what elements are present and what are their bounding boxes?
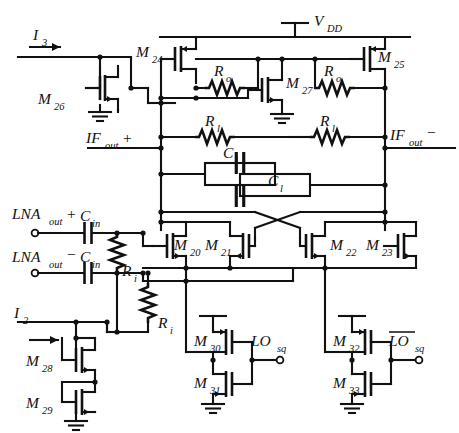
label-Rl-left: R bbox=[204, 112, 215, 129]
label-M31: M bbox=[193, 374, 208, 391]
label-M25-sub: 25 bbox=[394, 59, 405, 70]
label-M21-sub: 21 bbox=[221, 247, 232, 258]
label-M25: M bbox=[377, 48, 392, 65]
label-Ro-left: R bbox=[213, 62, 224, 79]
svg-text:IF: IF bbox=[85, 129, 101, 146]
label-i3: I bbox=[32, 26, 39, 43]
label-lna-out-minus: LNA out − bbox=[11, 246, 76, 270]
svg-text:LNA: LNA bbox=[11, 248, 41, 265]
transistor-M21 bbox=[186, 222, 255, 268]
label-Cl-lower-sub: l bbox=[280, 183, 283, 194]
label-Ri-upper-sub: i bbox=[134, 273, 137, 284]
label-M29: M bbox=[25, 394, 40, 411]
label-M21: M bbox=[204, 236, 219, 253]
label-Ro-right: R bbox=[323, 62, 334, 79]
label-Cl-lower: C bbox=[268, 172, 279, 189]
label-M31-sub: 31 bbox=[209, 385, 221, 396]
label-lo-sq-bar: LO sq bbox=[388, 332, 424, 354]
pmos-bias-net bbox=[131, 88, 175, 103]
label-M28-sub: 28 bbox=[42, 363, 53, 374]
label-Cin-upper-sub: in bbox=[92, 218, 100, 229]
label-Cin-upper: C bbox=[80, 207, 91, 224]
node-right-drain bbox=[382, 219, 387, 224]
label-Rl-right-sub: l bbox=[332, 123, 335, 134]
label-Rl-left-sub: l bbox=[217, 123, 220, 134]
svg-text:V: V bbox=[314, 12, 325, 29]
label-M28: M bbox=[25, 352, 40, 369]
source-tail-bus-a bbox=[143, 265, 416, 270]
transistor-M30 bbox=[200, 316, 255, 363]
label-Cin-lower-sub: in bbox=[92, 259, 100, 270]
label-M26: M bbox=[37, 90, 52, 107]
label-M23: M bbox=[365, 236, 380, 253]
label-i2-sub: 2 bbox=[23, 315, 29, 326]
capacitor-Cl-lower bbox=[237, 174, 388, 207]
label-Cin-lower: C bbox=[80, 248, 91, 265]
label-M23-sub: 23 bbox=[382, 247, 393, 258]
label-i2: I bbox=[13, 304, 20, 321]
label-M32: M bbox=[332, 332, 347, 349]
transistor-M29 bbox=[62, 379, 98, 430]
label-Ri-lower: R bbox=[157, 314, 168, 331]
transistor-M32 bbox=[339, 316, 394, 363]
svg-text:+: + bbox=[122, 129, 132, 146]
label-lo-sq: LO sq bbox=[250, 332, 286, 354]
svg-text:LO: LO bbox=[250, 332, 271, 349]
if-out-plus-terminal bbox=[88, 145, 164, 150]
label-M33-sub: 33 bbox=[348, 385, 360, 396]
label-vdd: V DD bbox=[314, 12, 343, 34]
svg-text:sq: sq bbox=[277, 343, 286, 354]
label-Rl-right: R bbox=[319, 112, 330, 129]
svg-text:+: + bbox=[66, 205, 76, 222]
capacitor-Cl-upper bbox=[158, 152, 275, 185]
label-Ro-right-sub: o bbox=[336, 73, 341, 84]
svg-text:out: out bbox=[105, 140, 120, 151]
mixer-cross-couple bbox=[158, 209, 387, 238]
svg-text:out: out bbox=[409, 137, 424, 148]
svg-text:sq: sq bbox=[415, 343, 424, 354]
vdd-rail bbox=[160, 23, 410, 37]
label-M27: M bbox=[285, 74, 300, 91]
svg-text:out: out bbox=[49, 259, 64, 270]
label-M27-sub: 27 bbox=[302, 85, 313, 96]
label-M24: M bbox=[135, 43, 150, 60]
lo-sq-terminal bbox=[252, 357, 283, 364]
label-if-out-minus: IF out − bbox=[389, 124, 436, 148]
left-out-node bbox=[158, 95, 196, 100]
label-M20-sub: 20 bbox=[190, 247, 201, 258]
svg-text:LNA: LNA bbox=[11, 205, 41, 222]
lo-sq-bar-terminal bbox=[391, 357, 422, 364]
label-M20: M bbox=[173, 236, 188, 253]
transistor-M28 bbox=[62, 335, 95, 382]
source-tail-bus-b bbox=[143, 268, 293, 284]
svg-text:LO: LO bbox=[388, 332, 409, 349]
svg-text:DD: DD bbox=[326, 23, 343, 34]
label-Cl-upper: C bbox=[223, 144, 234, 161]
node-left-drain bbox=[158, 219, 163, 224]
i3-branch bbox=[18, 43, 134, 91]
label-M29-sub: 29 bbox=[42, 405, 53, 416]
label-M33: M bbox=[332, 374, 347, 391]
circuit-schematic: I 3 M 26 M 24 M bbox=[0, 0, 459, 433]
label-M22: M bbox=[329, 236, 344, 253]
svg-text:−: − bbox=[426, 124, 436, 141]
label-i3-sub: 3 bbox=[41, 37, 47, 48]
svg-text:−: − bbox=[66, 246, 76, 263]
label-Ri-lower-sub: i bbox=[170, 325, 173, 336]
resistor-Rl-right bbox=[290, 130, 388, 144]
resistor-Rl-left bbox=[158, 130, 290, 144]
output-column-rails bbox=[161, 88, 385, 230]
label-lna-out-plus: LNA out + bbox=[11, 205, 76, 227]
label-M26-sub: 26 bbox=[54, 101, 65, 112]
label-M22-sub: 22 bbox=[346, 247, 357, 258]
m26-ground bbox=[89, 105, 118, 121]
label-M30: M bbox=[193, 332, 208, 349]
label-Ri-upper: R bbox=[121, 262, 132, 279]
ri-bias-column bbox=[107, 273, 120, 335]
transistor-M23 bbox=[384, 222, 416, 268]
svg-text:IF: IF bbox=[389, 126, 405, 143]
svg-text:out: out bbox=[49, 216, 64, 227]
transistor-M26 bbox=[86, 66, 118, 110]
label-Ro-left-sub: o bbox=[226, 73, 231, 84]
transistor-M24 bbox=[158, 37, 196, 106]
